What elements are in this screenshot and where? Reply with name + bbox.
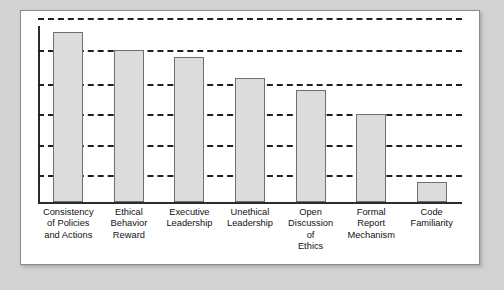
bar-group: [38, 18, 462, 202]
x-axis-tick-label: Executive Leadership: [159, 207, 220, 230]
figure-panel: Consistency of Policies and ActionsEthic…: [20, 10, 480, 265]
bar: [235, 78, 265, 202]
x-axis-tick-label: Consistency of Policies and Actions: [38, 207, 99, 241]
x-axis-tick-label: Code Familiarity: [401, 207, 462, 230]
bar: [53, 32, 83, 202]
x-axis-tick-label-group: Consistency of Policies and ActionsEthic…: [38, 207, 462, 265]
x-axis-line: [38, 202, 462, 204]
bar: [296, 90, 326, 202]
bar: [356, 114, 386, 202]
bar: [417, 182, 447, 202]
x-axis-tick-label: Ethical Behavior Reward: [99, 207, 160, 241]
bar: [174, 57, 204, 202]
x-axis-tick-label: Open Discussion of Ethics: [280, 207, 341, 253]
x-axis-tick-label: Formal Report Mechanism: [341, 207, 402, 241]
x-axis-tick-label: Unethical Leadership: [220, 207, 281, 230]
plot-area: [38, 18, 462, 204]
bar: [114, 50, 144, 202]
